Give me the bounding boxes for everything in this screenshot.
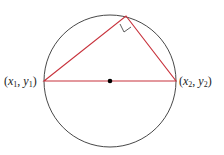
inscribed-triangle <box>44 16 176 81</box>
center-point <box>108 79 113 84</box>
right-angle-marker <box>120 24 131 32</box>
right-point-label: (x2, y2) <box>179 74 212 89</box>
left-point-label: (x1, y1) <box>4 74 37 89</box>
diagram-canvas: (x1, y1) (x2, y2) <box>0 0 224 155</box>
